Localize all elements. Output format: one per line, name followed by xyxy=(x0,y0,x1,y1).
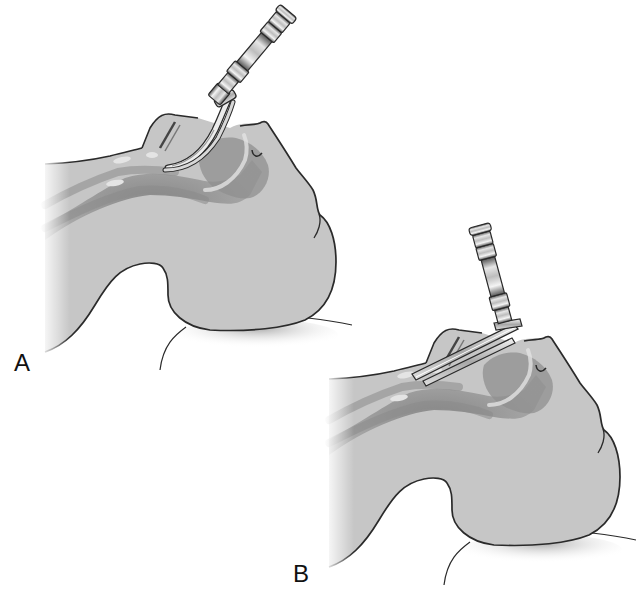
panel-label-a: A xyxy=(14,351,30,375)
panel-label-b: B xyxy=(293,562,309,586)
panel-a-laryngoscope-handle xyxy=(206,4,297,107)
laryngoscopy-figure: A B xyxy=(0,0,642,594)
panel-b-laryngoscope-handle xyxy=(468,223,515,325)
panel-b-anatomy xyxy=(324,329,636,585)
illustration-canvas xyxy=(0,0,642,594)
